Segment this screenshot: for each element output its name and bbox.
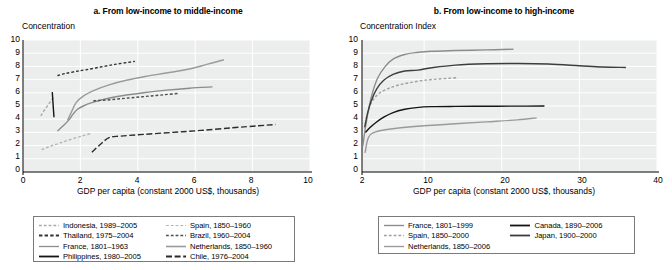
figure-container: a. From low-income to middle-income Conc…	[0, 0, 672, 270]
legend-item-label: Brazil, 1960–2004	[190, 231, 250, 240]
legend-item-label: Netherlands, 1850–2006	[408, 242, 490, 251]
legend-item[interactable]: France, 1801–1999	[384, 220, 510, 230]
legend-item-label: Philippines, 1980–2005	[63, 252, 141, 261]
legend-line-swatch-icon	[166, 252, 186, 261]
legend-line-swatch-icon	[39, 221, 59, 230]
legend-item-label: Japan, 1900–2000	[534, 231, 596, 240]
legend-item-label: Thailand, 1975–2004	[63, 231, 133, 240]
legend-item[interactable]: Spain, 1850–1960	[166, 220, 289, 230]
legend-item-label: Netherlands, 1850–1960	[190, 242, 272, 251]
legend-item-label: France, 1801–1999	[408, 221, 473, 230]
legend-line-swatch-icon	[384, 242, 404, 251]
legend-line-swatch-icon	[510, 231, 530, 240]
legend-panel-b: France, 1801–1999Spain, 1850–2000Netherl…	[378, 216, 635, 254]
legend-line-swatch-icon	[166, 221, 186, 230]
legend-item[interactable]: France, 1801–1963	[39, 241, 166, 251]
legend-b-column-1: France, 1801–1999Spain, 1850–2000Netherl…	[384, 220, 510, 252]
legend-line-swatch-icon	[39, 242, 59, 251]
legend-line-swatch-icon	[39, 231, 59, 240]
legend-line-swatch-icon	[510, 221, 530, 230]
legend-item-label: Spain, 1850–1960	[190, 221, 251, 230]
legend-item[interactable]: Japan, 1900–2000	[510, 231, 629, 241]
legend-line-swatch-icon	[166, 231, 186, 240]
legend-item[interactable]: Spain, 1850–2000	[384, 231, 510, 241]
legend-line-swatch-icon	[384, 221, 404, 230]
legend-item[interactable]: Brazil, 1960–2004	[166, 231, 289, 241]
legend-item[interactable]: Philippines, 1980–2005	[39, 252, 166, 262]
panel-b-plot	[336, 0, 672, 210]
legend-panel-a: Indonesia, 1989–2005Thailand, 1975–2004F…	[33, 216, 295, 262]
legend-item-label: Chile, 1976–2004	[190, 252, 249, 261]
legend-line-swatch-icon	[166, 242, 186, 251]
legend-item[interactable]: Netherlands, 1850–1960	[166, 241, 289, 251]
legend-item[interactable]: Indonesia, 1989–2005	[39, 220, 166, 230]
legend-item[interactable]: Netherlands, 1850–2006	[384, 241, 510, 251]
legend-item-label: Indonesia, 1989–2005	[63, 221, 137, 230]
legend-item[interactable]: Canada, 1890–2006	[510, 220, 629, 230]
legend-item-label: Spain, 1850–2000	[408, 231, 469, 240]
legend-line-swatch-icon	[39, 252, 59, 261]
panel-a-plot	[0, 0, 336, 210]
legend-line-swatch-icon	[384, 231, 404, 240]
legend-item-label: France, 1801–1963	[63, 242, 128, 251]
panel-b: b. From low-income to high-income Concen…	[336, 0, 672, 210]
legend-item[interactable]: Thailand, 1975–2004	[39, 231, 166, 241]
legend-b-column-2: Canada, 1890–2006Japan, 1900–2000	[510, 220, 629, 252]
legend-a-column-1: Indonesia, 1989–2005Thailand, 1975–2004F…	[39, 220, 166, 262]
legend-a-column-2: Spain, 1850–1960Brazil, 1960–2004Netherl…	[166, 220, 289, 262]
legend-item-label: Canada, 1890–2006	[534, 221, 602, 230]
legend-item[interactable]: Chile, 1976–2004	[166, 252, 289, 262]
panel-a: a. From low-income to middle-income Conc…	[0, 0, 336, 210]
